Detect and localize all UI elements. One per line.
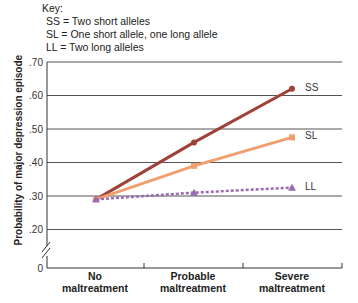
x-category-1: Probablemaltreatment xyxy=(143,270,243,294)
axis-break-icon xyxy=(42,248,50,258)
line-chart: .70.60.50.40.30.200SSSLLL xyxy=(0,0,358,303)
data-point xyxy=(288,184,296,191)
x-category-0: Nomaltreatment xyxy=(45,270,145,294)
series-label-ss: SS xyxy=(305,82,319,93)
data-point xyxy=(289,134,295,140)
data-point xyxy=(289,86,295,92)
y-tick-label: .50 xyxy=(29,124,43,135)
y-tick-label: 0 xyxy=(37,263,43,274)
y-tick-label: .20 xyxy=(29,224,43,235)
series-label-sl: SL xyxy=(305,130,318,141)
y-tick-label: .70 xyxy=(29,57,43,68)
x-category-2: Severemaltreatment xyxy=(242,270,342,294)
y-tick-label: .30 xyxy=(29,191,43,202)
series-label-ll: LL xyxy=(305,181,317,192)
y-tick-label: .40 xyxy=(29,157,43,168)
data-point xyxy=(191,139,197,145)
y-tick-label: .60 xyxy=(29,90,43,101)
axis-break-icon xyxy=(42,242,50,252)
data-point xyxy=(191,163,197,169)
